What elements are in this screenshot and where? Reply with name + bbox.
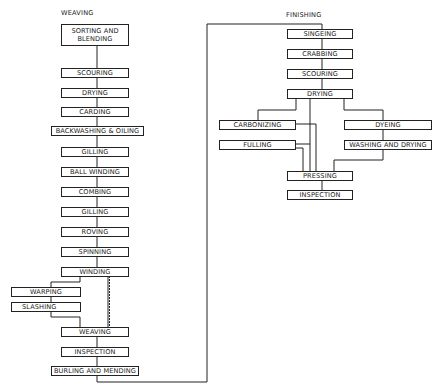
step-warping: WARPING [11, 287, 81, 297]
weaving-section-label: WEAVING [61, 9, 94, 17]
step-scouring: SCOURING [61, 68, 129, 78]
step-carding: CARDING [61, 107, 129, 117]
step-combing: COMBING [61, 187, 129, 197]
step-carbonizing: CARBONIZING [219, 120, 296, 130]
step-weaving: WEAVING [61, 327, 129, 337]
step-gilling-2: GILLING [61, 207, 129, 217]
step-washing-and-drying: WASHING AND DRYING [344, 140, 432, 150]
step-singeing: SINGEING [287, 29, 353, 39]
step-finishing-drying: DRYING [287, 89, 353, 99]
step-roving: ROVING [61, 227, 129, 237]
step-drying: DRYING [61, 88, 129, 98]
step-ball-winding: BALL WINDING [61, 167, 129, 177]
step-winding: WINDING [61, 267, 129, 277]
step-finishing-scouring: SCOURING [287, 69, 353, 79]
step-sorting-and-blending: SORTING AND BLENDING [61, 24, 129, 46]
step-fulling: FULLING [219, 140, 296, 150]
step-burling-and-mending: BURLING AND MENDING [51, 366, 139, 376]
step-finishing-inspection: INSPECTION [287, 190, 353, 200]
step-gilling-1: GILLING [61, 147, 129, 157]
step-pressing: PRESSING [287, 171, 353, 181]
step-slashing: SLASHING [11, 302, 81, 312]
finishing-section-label: FINISHING [286, 11, 322, 19]
step-dyeing: DYEING [344, 120, 432, 130]
step-crabbing: CRABBING [287, 49, 353, 59]
step-spinning: SPINNING [61, 247, 129, 257]
step-inspection: INSPECTION [61, 347, 129, 357]
step-backwashing-oiling: BACKWASHING & OILING [51, 126, 144, 136]
